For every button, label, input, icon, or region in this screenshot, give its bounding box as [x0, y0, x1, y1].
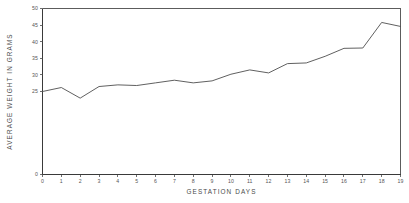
y-axis-tick-label: 40 [32, 39, 38, 45]
x-axis-tick-label: 3 [98, 178, 101, 184]
x-axis-tick-label: 10 [228, 178, 234, 184]
x-axis-tick-label: 13 [284, 178, 290, 184]
x-axis-tick-label: 14 [303, 178, 309, 184]
x-axis-tick-label: 1 [60, 178, 63, 184]
chart-container: 0253035404550 01234567891011121314151617… [0, 0, 409, 203]
y-axis-tick-label: 45 [32, 22, 38, 28]
x-axis-tick-label: 18 [379, 178, 385, 184]
y-axis-tick-label: 35 [32, 55, 38, 61]
x-axis-tick-label: 2 [79, 178, 82, 184]
data-series-line [43, 22, 401, 98]
x-axis-tick-label: 7 [173, 178, 176, 184]
x-axis-tick-label: 15 [322, 178, 328, 184]
x-axis-tick-label: 19 [398, 178, 404, 184]
x-axis-tick-label: 4 [116, 178, 119, 184]
x-axis-tick-label: 6 [154, 178, 157, 184]
y-axis-ticks: 0253035404550 [32, 5, 42, 177]
x-axis-tick-label: 5 [135, 178, 138, 184]
x-axis-ticks: 012345678910111213141516171819 [41, 175, 403, 184]
y-axis-tick-label: 25 [32, 88, 38, 94]
y-axis-tick-label: 0 [35, 171, 38, 177]
y-axis-tick-label: 30 [32, 72, 38, 78]
plot-frame [43, 9, 401, 175]
x-axis-tick-label: 8 [192, 178, 195, 184]
x-axis-title: GESTATION DAYS [186, 188, 256, 195]
y-axis-tick-label: 50 [32, 5, 38, 11]
x-axis-tick-label: 17 [360, 178, 366, 184]
line-chart: 0253035404550 01234567891011121314151617… [0, 0, 409, 203]
x-axis-tick-label: 16 [341, 178, 347, 184]
x-axis-tick-label: 12 [266, 178, 272, 184]
x-axis-tick-label: 9 [211, 178, 214, 184]
x-axis-tick-label: 0 [41, 178, 44, 184]
y-axis-title: AVERAGE WEIGHT IN GRAMS [6, 33, 13, 149]
x-axis-tick-label: 11 [247, 178, 253, 184]
